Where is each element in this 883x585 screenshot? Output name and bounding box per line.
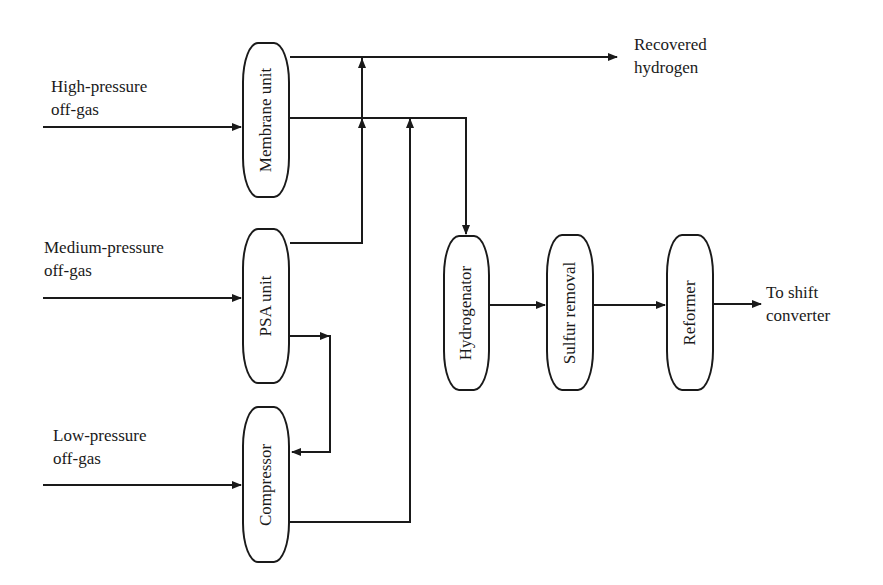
- recovered-hydrogen-label-line1: Recovered: [634, 33, 707, 56]
- psa-to-compressor-line: [290, 336, 330, 452]
- psa-unit-label: PSA unit: [256, 276, 276, 337]
- psa-unit-box: PSA unit: [242, 228, 290, 384]
- medium-pressure-label-line2: off-gas: [44, 259, 164, 282]
- hydrogenator-label: Hydrogenator: [457, 266, 477, 360]
- membrane-to-hydrogenator-line: [290, 118, 466, 234]
- compressor-box: Compressor: [242, 406, 290, 563]
- compressor-label: Compressor: [256, 443, 276, 525]
- recovered-hydrogen-label: Recovered hydrogen: [634, 33, 707, 79]
- reformer-box: Reformer: [666, 234, 714, 391]
- recovered-hydrogen-label-line2: hydrogen: [634, 56, 707, 79]
- sulfur-removal-label: Sulfur removal: [560, 261, 580, 363]
- medium-pressure-label: Medium-pressure off-gas: [44, 236, 164, 282]
- high-pressure-label-line1: High-pressure: [51, 75, 147, 98]
- low-pressure-label-line1: Low-pressure: [53, 424, 146, 447]
- shift-converter-label-line2: converter: [766, 304, 830, 327]
- high-pressure-label-line2: off-gas: [51, 98, 147, 121]
- low-pressure-label: Low-pressure off-gas: [53, 424, 146, 470]
- medium-pressure-label-line1: Medium-pressure: [44, 236, 164, 259]
- membrane-unit-label: Membrane unit: [256, 68, 276, 172]
- high-pressure-label: High-pressure off-gas: [51, 75, 147, 121]
- reformer-label: Reformer: [680, 280, 700, 345]
- psa-to-hydrogen-line: [290, 58, 362, 243]
- membrane-unit-box: Membrane unit: [242, 42, 290, 198]
- sulfur-removal-box: Sulfur removal: [546, 234, 594, 391]
- low-pressure-label-line2: off-gas: [53, 447, 146, 470]
- shift-converter-label: To shift converter: [766, 281, 830, 327]
- compressor-to-hydrogenator-line: [290, 119, 410, 522]
- shift-converter-label-line1: To shift: [766, 281, 830, 304]
- hydrogenator-box: Hydrogenator: [443, 235, 490, 391]
